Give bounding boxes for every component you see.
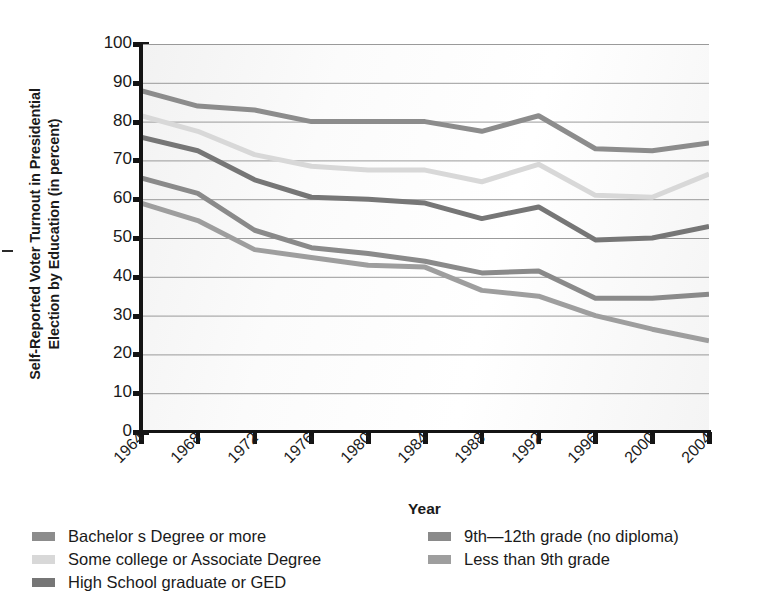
- legend-swatch-icon: [428, 555, 451, 564]
- y-tick-label: 70: [92, 149, 132, 169]
- y-axis-tick-labels: 1009080706050403020100: [88, 44, 132, 432]
- y-axis-title: Self-Reported Voter Turnout in President…: [26, 19, 64, 449]
- y-axis-title-line2: Election by Education (in percent): [45, 19, 64, 449]
- legend-item[interactable]: High School graduate or GED: [32, 571, 321, 593]
- legend-swatch-icon: [32, 532, 55, 541]
- legend-swatch-icon: [32, 578, 55, 587]
- y-tick-label: 90: [92, 72, 132, 92]
- legend-item[interactable]: Bachelor s Degree or more: [32, 525, 321, 547]
- legend-swatch-icon: [32, 555, 55, 564]
- legend-item[interactable]: Some college or Associate Degree: [32, 548, 321, 570]
- y-tick-label: 40: [92, 266, 132, 286]
- legend-column-right: 9th—12th grade (no diploma)Less than 9th…: [428, 525, 679, 571]
- y-tick-label: 10: [92, 382, 132, 402]
- legend-label: Less than 9th grade: [464, 550, 610, 569]
- series-line: [141, 137, 709, 240]
- y-tick-label: 50: [92, 227, 132, 247]
- series-canvas: [141, 44, 709, 432]
- legend-label: Bachelor s Degree or more: [68, 527, 266, 546]
- chart-figure: Self-Reported Voter Turnout in President…: [0, 0, 769, 615]
- y-tick-label: 20: [92, 343, 132, 363]
- legend-label: 9th—12th grade (no diploma): [464, 527, 679, 546]
- y-axis-line: [139, 42, 143, 434]
- y-tick-label: 80: [92, 111, 132, 131]
- legend-column-left: Bachelor s Degree or moreSome college or…: [32, 525, 321, 594]
- series-line: [141, 116, 709, 197]
- y-axis-title-line1: Self-Reported Voter Turnout in President…: [27, 88, 43, 380]
- chart-legend: Bachelor s Degree or moreSome college or…: [0, 525, 769, 605]
- y-tick-label: 60: [92, 188, 132, 208]
- plot-area: [141, 44, 709, 432]
- x-axis-tick-labels: 1964196819721976198019841988199219962000…: [0, 440, 769, 500]
- y-tick-label: 30: [92, 305, 132, 325]
- legend-swatch-icon: [428, 532, 451, 541]
- series-line: [141, 203, 709, 341]
- legend-label: High School graduate or GED: [68, 573, 286, 592]
- y-tick-label: 100: [92, 33, 132, 53]
- legend-item[interactable]: 9th—12th grade (no diploma): [428, 525, 679, 547]
- legend-label: Some college or Associate Degree: [68, 550, 321, 569]
- x-axis-title: Year: [0, 500, 769, 518]
- y-axis-title-wrapper: Self-Reported Voter Turnout in President…: [0, 0, 86, 470]
- legend-item[interactable]: Less than 9th grade: [428, 548, 679, 570]
